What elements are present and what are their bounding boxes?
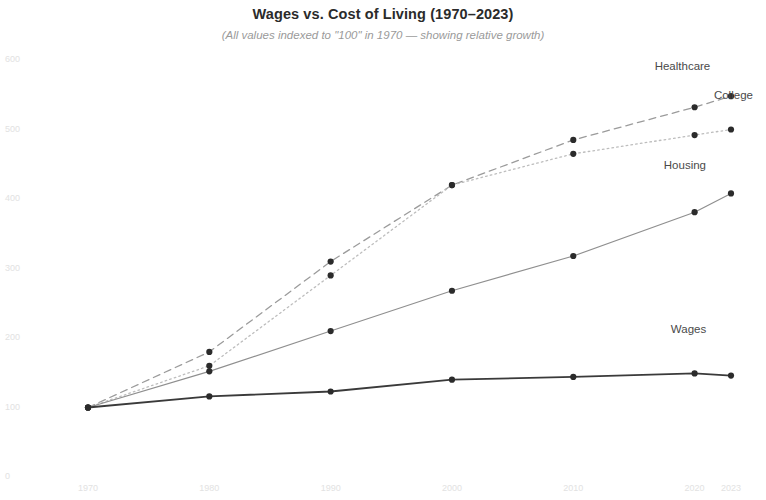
x-axis-tick-label: 1970: [78, 483, 98, 493]
series-label-wages: Wages: [671, 323, 706, 335]
y-axis-tick-label: 100: [5, 402, 20, 412]
data-point: [85, 404, 91, 410]
x-axis-tick-label: 2023: [721, 483, 741, 493]
data-point: [570, 151, 576, 157]
x-axis-tick-label: 1980: [199, 483, 219, 493]
data-point: [206, 363, 212, 369]
series-label-healthcare: Healthcare: [655, 60, 711, 72]
data-point: [570, 137, 576, 143]
series-label-college: College: [714, 89, 753, 101]
data-point: [449, 377, 455, 383]
data-point: [692, 132, 698, 138]
series-housing: [85, 190, 734, 410]
data-point: [206, 368, 212, 374]
data-point: [206, 393, 212, 399]
series-healthcare: [85, 93, 734, 411]
x-axis-tick-label: 1990: [321, 483, 341, 493]
y-axis-tick-label: 0: [5, 471, 10, 481]
series-college: [85, 126, 734, 410]
data-point: [206, 349, 212, 355]
data-point: [570, 253, 576, 259]
data-point: [449, 288, 455, 294]
data-point: [692, 370, 698, 376]
plot-area: [0, 0, 766, 500]
x-axis-tick-label: 2010: [563, 483, 583, 493]
data-point: [328, 388, 334, 394]
y-axis-tick-label: 400: [5, 193, 20, 203]
y-axis-tick-label: 200: [5, 332, 20, 342]
y-axis-tick-label: 600: [5, 54, 20, 64]
data-point: [328, 258, 334, 264]
data-point: [328, 328, 334, 334]
chart-svg: [0, 0, 766, 500]
y-axis-tick-label: 300: [5, 263, 20, 273]
data-point: [692, 209, 698, 215]
data-point: [728, 126, 734, 132]
data-point: [570, 374, 576, 380]
series-line: [88, 130, 731, 408]
x-axis-tick-label: 2020: [685, 483, 705, 493]
series-wages: [85, 370, 734, 410]
x-axis-tick-label: 2000: [442, 483, 462, 493]
y-axis-tick-label: 500: [5, 124, 20, 134]
chart-container: Wages vs. Cost of Living (1970–2023) (Al…: [0, 0, 766, 500]
series-line: [88, 96, 731, 407]
series-label-housing: Housing: [664, 159, 706, 171]
data-point: [328, 272, 334, 278]
data-point: [692, 104, 698, 110]
data-point: [728, 190, 734, 196]
data-point: [728, 372, 734, 378]
data-point: [449, 182, 455, 188]
